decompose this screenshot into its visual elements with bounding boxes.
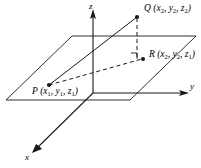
point-label-R-y-sub: 2 bbox=[177, 53, 180, 60]
axis-label-z: z bbox=[89, 2, 93, 11]
point-label-Q-z-sub: 2 bbox=[185, 7, 188, 14]
figure-canvas bbox=[0, 0, 201, 168]
point-R-dot bbox=[141, 57, 145, 61]
point-label-Q: Q (x2, y2, z2) bbox=[144, 4, 191, 14]
3d-coordinate-figure: z y x Q (x2, y2, z2) R (x2, y2, z1) P (x… bbox=[0, 0, 201, 168]
point-label-Q-name: Q bbox=[144, 3, 151, 13]
point-label-Q-x: x bbox=[156, 3, 160, 13]
point-label-P-y-sub: 1 bbox=[60, 90, 63, 97]
point-label-Q-x-sub: 2 bbox=[161, 7, 164, 14]
point-label-R-z: z bbox=[185, 49, 189, 59]
point-label-Q-paren-close: ) bbox=[188, 3, 191, 13]
point-label-Q-y-sub: 2 bbox=[173, 7, 176, 14]
point-label-P-z: z bbox=[68, 86, 72, 96]
point-label-P-z-sub: 1 bbox=[72, 90, 75, 97]
point-label-R-z-sub: 1 bbox=[189, 53, 192, 60]
point-label-R: R (x2, y2, z1) bbox=[149, 50, 195, 60]
point-label-R-paren-close: ) bbox=[192, 49, 195, 59]
point-label-P-x-sub: 1 bbox=[48, 90, 51, 97]
right-angle-marker bbox=[131, 53, 137, 59]
point-label-R-x-sub: 2 bbox=[165, 53, 168, 60]
point-Q-dot bbox=[135, 15, 139, 19]
point-label-Q-z: z bbox=[181, 3, 185, 13]
segment-PR-dashed bbox=[49, 59, 142, 85]
point-label-P-paren-close: ) bbox=[75, 86, 78, 96]
x-axis-arrowhead bbox=[32, 144, 42, 153]
x-axis-line bbox=[37, 93, 93, 148]
point-label-P: P (x1, y1, z1) bbox=[32, 87, 78, 97]
axis-label-x: x bbox=[25, 153, 29, 162]
axis-label-y: y bbox=[190, 82, 194, 91]
point-label-P-x: x bbox=[43, 86, 47, 96]
point-label-R-x: x bbox=[160, 49, 164, 59]
